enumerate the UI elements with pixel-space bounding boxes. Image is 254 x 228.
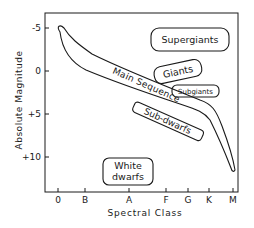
y-tick-label: +10 <box>22 152 41 162</box>
x-tick-label: B <box>82 195 88 205</box>
y-axis-ticks <box>45 28 49 157</box>
white-dwarfs-region: White dwarfs <box>103 158 153 185</box>
white-dwarfs-label-line1: White <box>114 160 142 171</box>
x-tick-label: A <box>126 195 133 205</box>
x-axis-title: Spectral Class <box>108 208 183 218</box>
sub-dwarfs-label: Sub-dwarfs <box>142 106 193 136</box>
x-axis-ticks <box>58 188 233 192</box>
subgiants-region: Subgiants <box>172 85 219 97</box>
main-sequence-band <box>58 26 235 171</box>
y-tick-label: +5 <box>28 109 41 119</box>
giants-region: Giants <box>153 58 203 85</box>
sub-dwarfs-region: Sub-dwarfs <box>132 101 205 142</box>
y-tick-label: 0 <box>35 66 41 76</box>
x-tick-label: G <box>185 195 192 205</box>
x-tick-label: 0 <box>55 195 61 205</box>
hr-diagram: -5 0 +5 +10 Absolute Magnitude 0 B A F G… <box>0 0 254 228</box>
subgiants-label: Subgiants <box>178 88 213 96</box>
y-tick-label: -5 <box>32 23 41 33</box>
white-dwarfs-label-line2: dwarfs <box>112 171 144 182</box>
supergiants-label: Supergiants <box>162 34 219 45</box>
x-tick-label: K <box>206 195 213 205</box>
x-tick-label: F <box>163 195 168 205</box>
x-tick-label: M <box>229 195 237 205</box>
y-axis-title: Absolute Magnitude <box>14 51 24 150</box>
supergiants-region: Supergiants <box>151 28 229 51</box>
